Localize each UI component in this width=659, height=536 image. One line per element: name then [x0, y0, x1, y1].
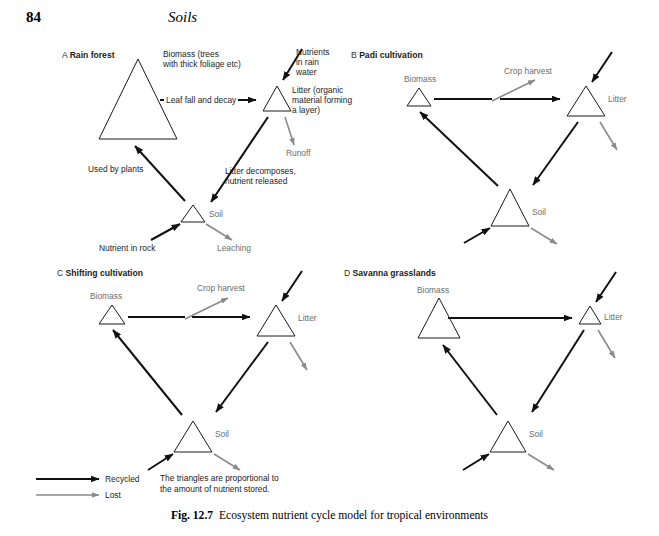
panel-D-litter-label: Litter — [604, 312, 623, 322]
panel-A-letter: A — [62, 50, 70, 60]
panel-C-letter: C — [57, 268, 66, 278]
panel-B-flow-crop-harvest — [492, 80, 535, 101]
panel-B-flow-input-to-litter — [592, 52, 612, 82]
panel-B-litter-label: Litter — [608, 94, 627, 104]
panel-C-title: C Shifting cultivation — [57, 268, 143, 278]
panel-A-biomass-label-line2: with thick foliage etc) — [163, 59, 241, 69]
panel-C-biomass-triangle — [99, 305, 125, 324]
panel-A-leaching-label: Leaching — [217, 243, 251, 253]
panel-A-flow-litter-decomposes — [211, 117, 268, 202]
panel-C-litter-triangle — [257, 305, 295, 336]
panel-A-litter-label-line2: material forming — [292, 95, 352, 105]
panel-D-soil-triangle — [490, 421, 526, 452]
panel-A-title: A Rain forest — [62, 50, 115, 60]
panel-D-flow-soil-loss — [528, 454, 554, 470]
panel-C-flow-litter-loss — [290, 342, 307, 370]
panel-B-soil-triangle — [491, 189, 529, 226]
panel-A-flow-runoff — [285, 117, 294, 145]
panel-A-litter-label-line1: Litter (organic — [292, 85, 343, 95]
panel-A-nutrients-label-line2: in rain — [296, 57, 319, 67]
panel-C-shifting-cultivation — [99, 271, 307, 470]
figure-caption-text: Ecosystem nutrient cycle model for tropi… — [219, 509, 488, 522]
panel-D-flow-litter-to-soil — [532, 330, 584, 412]
panel-A-rain-forest — [99, 49, 302, 240]
figure-caption-label: Fig. 12.7 — [171, 509, 213, 522]
panel-D-flow-soil-to-biomass — [443, 345, 497, 415]
panel-A-leaf-fall-label: Leaf fall and decay — [164, 95, 238, 105]
legend-lost-label: Lost — [105, 490, 121, 500]
panel-A-litter-triangle — [263, 86, 291, 111]
panel-C-litter-label: Litter — [298, 313, 317, 323]
panel-C-soil-label: Soil — [215, 429, 229, 439]
panel-D-title-text: Savanna grasslands — [353, 268, 436, 278]
panel-A-title-text: Rain forest — [70, 50, 115, 60]
panel-C-flow-input-to-soil — [148, 454, 173, 470]
panel-A-litter-decomposes-line1: Litter decomposes, — [225, 166, 296, 176]
panel-B-letter: B — [351, 50, 359, 60]
panel-D-biomass-label: Biomass — [417, 285, 449, 295]
panel-C-soil-triangle — [174, 421, 212, 452]
legend-note-line2: the amount of nutrient stored. — [160, 484, 269, 495]
panel-C-crop-harvest-label: Crop harvest — [197, 283, 245, 293]
panel-A-flow-nutrient-in-rock — [151, 224, 180, 240]
panel-C-flow-litter-to-soil — [216, 342, 268, 412]
panel-C-flow-soil-to-biomass — [113, 330, 182, 415]
panel-B-biomass-triangle — [407, 88, 431, 106]
panel-A-used-by-plants-label: Used by plants — [88, 164, 143, 174]
panel-B-flow-litter-loss — [600, 122, 617, 150]
panel-B-padi-cultivation — [407, 52, 617, 244]
panel-A-soil-label: Soil — [209, 209, 223, 219]
panel-C-title-text: Shifting cultivation — [66, 268, 143, 278]
panel-B-title-text: Padi cultivation — [359, 50, 423, 60]
panel-C-flow-soil-loss — [214, 454, 240, 470]
panel-C-biomass-label: Biomass — [90, 291, 122, 301]
panel-B-soil-label: Soil — [532, 207, 546, 217]
panel-D-savanna-grasslands — [418, 272, 616, 470]
panel-A-nutrients-label-line3: water — [296, 67, 316, 77]
panel-B-crop-harvest-label: Crop harvest — [504, 66, 552, 76]
panel-A-nutrient-in-rock-label: Nutrient in rock — [99, 243, 155, 253]
panel-B-flow-litter-to-soil — [533, 122, 578, 185]
panel-C-flow-input-to-litter — [282, 271, 302, 301]
panel-D-flow-input-to-soil — [463, 454, 489, 470]
panel-C-flow-crop-harvest — [185, 298, 228, 319]
panel-B-biomass-label: Biomass — [404, 74, 436, 84]
panel-A-nutrients-label-line1: Nutrients — [296, 47, 330, 57]
panel-A-soil-triangle — [181, 205, 205, 222]
panel-D-flow-litter-loss — [598, 330, 615, 358]
panel-D-soil-label: Soil — [529, 429, 543, 439]
panel-A-litter-decomposes-line2: nutrient released — [225, 176, 287, 186]
panel-A-biomass-label-line1: Biomass (trees — [163, 49, 219, 59]
panel-D-litter-triangle — [579, 306, 601, 324]
panel-A-litter-label-line3: a layer) — [292, 105, 320, 115]
panel-B-litter-triangle — [567, 86, 605, 116]
panel-B-flow-soil-to-biomass — [420, 112, 498, 186]
panel-A-flow-leaching — [206, 224, 232, 240]
panel-A-runoff-label: Runoff — [286, 148, 311, 158]
legend-note-line1: The triangles are proportional to — [160, 473, 279, 484]
panel-D-flow-input-to-litter — [596, 272, 616, 302]
panel-B-title: B Padi cultivation — [351, 50, 423, 60]
panel-B-flow-soil-loss — [531, 228, 557, 244]
panel-D-title: D Savanna grasslands — [344, 268, 436, 278]
figure-caption: Fig. 12.7 Ecosystem nutrient cycle model… — [0, 509, 659, 522]
legend-recycled-label: Recycled — [105, 474, 139, 484]
panel-D-letter: D — [344, 268, 353, 278]
figure-container: 84 Soils — [0, 0, 659, 536]
legend-arrows — [36, 479, 99, 495]
panel-B-flow-input-to-soil — [464, 228, 490, 243]
